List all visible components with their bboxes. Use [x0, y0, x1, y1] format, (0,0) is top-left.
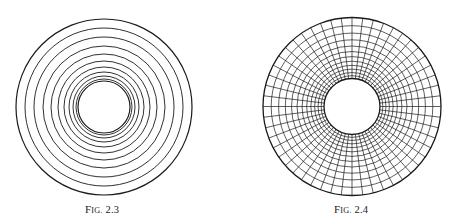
figure-2-4-polar-grid	[263, 18, 441, 196]
circle	[43, 46, 165, 168]
circle	[78, 81, 130, 133]
circle	[25, 28, 183, 186]
circle	[76, 79, 132, 135]
caption-smallcaps: IG.	[340, 206, 351, 215]
circle	[324, 79, 380, 135]
figure-2-3-concentric-circles	[16, 19, 192, 195]
circle	[73, 76, 135, 138]
figures-canvas	[0, 0, 459, 222]
caption-fig-2-4: FIG. 2.4	[334, 203, 368, 215]
circle	[34, 37, 174, 177]
circle	[51, 54, 157, 160]
circle	[58, 61, 150, 153]
circle	[315, 69, 390, 144]
caption-fig-2-3: FIG. 2.3	[85, 203, 119, 215]
caption-number: 2.3	[105, 204, 119, 215]
caption-smallcaps: IG.	[91, 206, 102, 215]
circle	[69, 72, 139, 142]
caption-number: 2.4	[354, 204, 368, 215]
circle	[318, 73, 386, 141]
circle	[321, 76, 383, 138]
circle	[16, 19, 192, 195]
